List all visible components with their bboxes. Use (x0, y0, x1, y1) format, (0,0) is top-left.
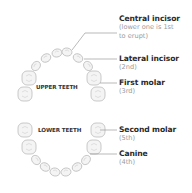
lower-lateral-incisor-left-icon (39, 161, 52, 173)
label-first-molar: First molar (3rd) (119, 78, 165, 96)
upper-central-incisor-left-icon (51, 48, 63, 58)
label-canine: Canine (4th) (119, 149, 148, 167)
lower-central-incisor-left-icon (49, 167, 60, 177)
label-note: (lower one is 1st (119, 23, 180, 32)
upper-lateral-incisor-left-icon (40, 52, 53, 64)
label-note: (3rd) (119, 87, 165, 96)
label-note: to erupt) (119, 32, 180, 41)
baby-teeth-eruption-diagram: UPPER TEETH LOWER TEETH Central incisor … (0, 0, 192, 193)
upper-teeth-label: UPPER TEETH (36, 84, 78, 90)
lower-first-molar-left-icon (22, 140, 36, 154)
upper-first-molar-left-icon (22, 71, 36, 85)
label-title: Canine (119, 149, 148, 158)
lower-first-molar-right-icon (87, 140, 101, 154)
upper-second-molar-right-icon (91, 87, 105, 101)
upper-lateral-incisor-right-icon (72, 52, 85, 64)
label-title: Second molar (119, 125, 176, 134)
upper-canine-right-icon (82, 60, 95, 73)
upper-teeth-arch (18, 47, 105, 101)
label-note: (2nd) (119, 63, 179, 72)
upper-second-molar-left-icon (18, 87, 32, 101)
label-note: (5th) (119, 134, 176, 143)
label-note: (4th) (119, 158, 148, 167)
leader-line-central-incisor (72, 33, 117, 50)
label-second-molar: Second molar (5th) (119, 125, 176, 143)
label-title: Lateral incisor (119, 54, 179, 63)
label-central-incisor: Central incisor (lower one is 1st to eru… (119, 14, 180, 40)
lower-lateral-incisor-right-icon (71, 161, 84, 173)
label-title: Central incisor (119, 14, 180, 23)
lower-central-incisor-right-icon (60, 167, 71, 177)
upper-canine-left-icon (30, 60, 43, 73)
upper-central-incisor-right-icon (61, 47, 72, 57)
label-title: First molar (119, 78, 165, 87)
lower-teeth-label: LOWER TEETH (38, 127, 81, 133)
lower-second-molar-left-icon (18, 123, 32, 137)
upper-first-molar-right-icon (87, 71, 101, 85)
label-lateral-incisor: Lateral incisor (2nd) (119, 54, 179, 72)
